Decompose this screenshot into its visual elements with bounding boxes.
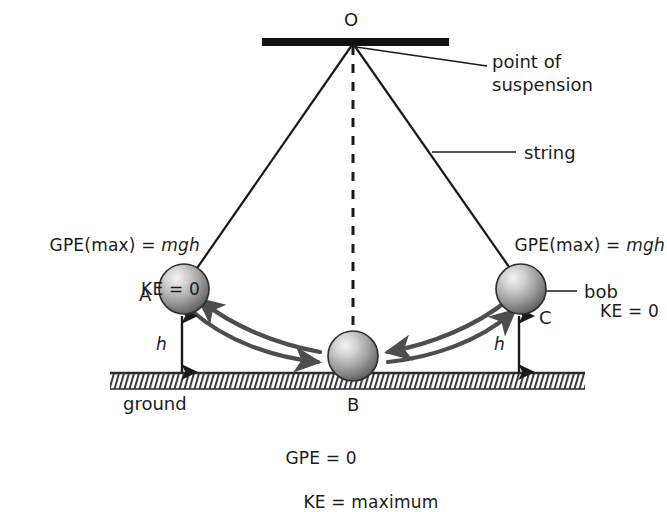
point-of-suspension-line2: suspension [492, 74, 593, 95]
position-label-b: B [347, 393, 359, 416]
energy-right-gpe-prefix: GPE(max) = [514, 235, 626, 255]
position-label-c: C [539, 306, 552, 329]
swing-arrow-c-to-b [388, 300, 508, 352]
height-symbol-right: h [494, 333, 505, 355]
energy-label-right: GPE(max) = mgh KE = 0 [492, 212, 667, 367]
support-bar [262, 38, 449, 46]
energy-right-mgh: mgh [626, 235, 665, 255]
swing-arrow-a-to-b [192, 311, 318, 362]
bob-b [328, 331, 378, 381]
energy-label-left: GPE(max) = mgh KE = 0 [0, 212, 200, 322]
energy-left-line1: GPE(max) = mgh [50, 235, 200, 255]
leader-point-of-suspension [356, 47, 487, 66]
energy-left-mgh: mgh [161, 235, 200, 255]
swing-arrow-b-to-a [200, 300, 320, 352]
point-of-suspension-line1: point of [492, 51, 561, 72]
string-label: string [524, 141, 576, 164]
energy-right-line1: GPE(max) = mgh [514, 235, 664, 255]
height-symbol-left: h [156, 333, 167, 355]
pivot-label: O [344, 8, 358, 31]
energy-label-bottom: GPE = 0 KE = maximum [263, 425, 523, 512]
ground-label: ground [123, 392, 187, 415]
string-left [186, 45, 352, 284]
energy-bottom-line2: KE = maximum [303, 491, 438, 512]
energy-bottom-line1: GPE = 0 [285, 448, 356, 468]
position-label-a: A [139, 283, 151, 306]
energy-right-line2: KE = 0 [492, 300, 659, 322]
point-of-suspension-label: point ofsuspension [492, 50, 593, 97]
energy-left-gpe-prefix: GPE(max) = [50, 235, 162, 255]
